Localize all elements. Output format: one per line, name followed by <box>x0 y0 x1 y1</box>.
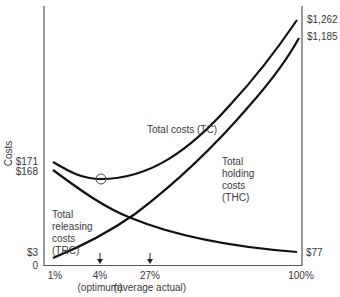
optimum-arrow-icon <box>97 253 103 264</box>
cost-chart <box>0 0 340 297</box>
right-tick-1185: $1,185 <box>307 31 338 42</box>
right-tick-77: $77 <box>306 247 323 258</box>
thc-label: Total holding costs (THC) <box>222 156 254 204</box>
x-tick-27: 27% <box>130 270 170 281</box>
y-tick-168: $168 <box>0 166 38 177</box>
right-tick-1262: $1,262 <box>307 14 338 25</box>
y-tick-3: $3 <box>0 247 38 258</box>
x-tick-4: 4% <box>80 270 120 281</box>
x-tick-1: 1% <box>35 270 75 281</box>
tc-label: Total costs (TC) <box>147 124 217 135</box>
y-tick-0: 0 <box>0 260 38 271</box>
tc-curve <box>53 20 297 179</box>
x-tick-100: 100% <box>281 270 321 281</box>
trc-label: Total releasing costs (TRC) <box>52 209 93 257</box>
x-sublabel-average-actual: (average actual) <box>105 282 195 293</box>
average-actual-arrow-icon <box>147 253 153 264</box>
